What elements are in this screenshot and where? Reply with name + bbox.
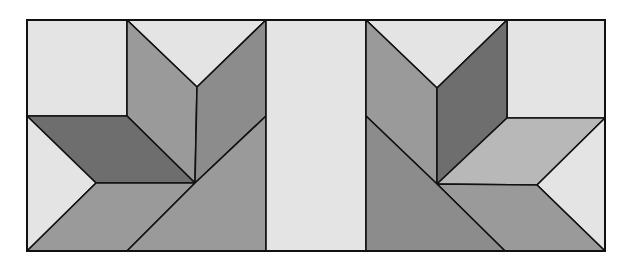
center-sashing-strip [266, 20, 366, 251]
right-top-right-square [507, 20, 605, 118]
left-star-block [27, 20, 266, 251]
quilt-figure [0, 0, 631, 268]
sashing-strip [266, 20, 366, 251]
left-top-left-square [27, 20, 127, 116]
right-star-block [366, 20, 605, 251]
quilt-pattern-diagram [0, 0, 631, 268]
